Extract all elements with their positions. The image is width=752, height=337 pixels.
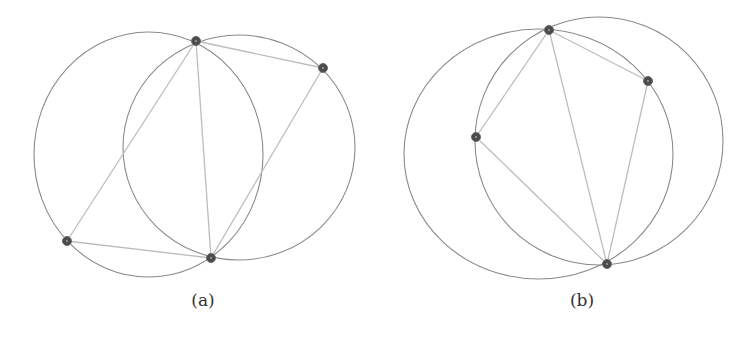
figure-canvas	[0, 0, 752, 337]
edge-b-0-3	[549, 30, 607, 264]
vertex-core-a-0	[195, 40, 197, 42]
vertex-core-b-3	[606, 263, 608, 265]
caption-b: (b)	[570, 290, 594, 310]
vertex-core-b-0	[548, 29, 550, 31]
vertex-core-a-3	[210, 257, 212, 259]
edge-a-0-2	[67, 41, 196, 241]
panel-b	[404, 17, 723, 279]
edge-b-1-3	[607, 81, 648, 264]
edge-a-0-3	[196, 41, 211, 258]
edge-a-1-3	[211, 68, 323, 258]
vertex-core-b-1	[647, 80, 649, 82]
panel-a	[34, 32, 355, 277]
vertex-core-a-2	[66, 240, 68, 242]
vertex-core-b-2	[475, 136, 477, 138]
circumcircle-b-2	[475, 17, 723, 265]
caption-a: (a)	[191, 290, 214, 310]
edge-b-2-3	[476, 137, 607, 264]
circumcircle-b-1	[404, 29, 673, 279]
vertex-core-a-1	[322, 67, 324, 69]
edge-b-0-1	[549, 30, 648, 81]
edge-b-0-2	[476, 30, 549, 137]
